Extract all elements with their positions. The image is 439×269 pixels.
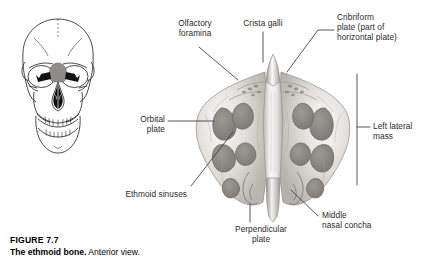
- label-cribriform-plate: Cribriform plate (part of horizontal pla…: [337, 12, 437, 43]
- label-olfactory-foramina: Olfactory foramina: [162, 18, 228, 38]
- figure-container: Olfactory foramina Crista galli Cribrifo…: [0, 0, 439, 269]
- figure-subtitle: Anterior view.: [88, 247, 140, 257]
- label-ethmoid-sinuses: Ethmoid sinuses: [112, 189, 187, 199]
- anterior-skull-orientation-diagram: [12, 16, 104, 158]
- label-orbital-plate: Orbital plate: [108, 114, 165, 134]
- leader-left-lateral-mass-bracket: [357, 74, 370, 185]
- figure-caption-line: The ethmoid bone. Anterior view.: [10, 246, 260, 258]
- figure-caption: FIGURE 7.7 The ethmoid bone. Anterior vi…: [10, 234, 260, 259]
- label-left-lateral-mass: Left lateral mass: [373, 121, 437, 141]
- nasal-cavity-highlight: [53, 84, 62, 109]
- label-crista-galli: Crista galli: [232, 18, 294, 28]
- figure-title: The ethmoid bone.: [10, 247, 86, 257]
- figure-number: FIGURE 7.7: [10, 234, 260, 246]
- ethmoid-bone-photograph: [193, 52, 353, 224]
- label-middle-nasal-concha: Middle nasal concha: [322, 210, 400, 230]
